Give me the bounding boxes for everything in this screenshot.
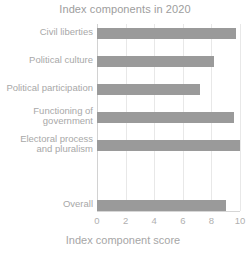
x-tick-label: 4: [152, 215, 157, 226]
bar: [97, 56, 214, 67]
category-axis-labels: Civil libertiesPolitical culturePolitica…: [0, 24, 93, 211]
x-tick-label: 10: [235, 215, 246, 226]
x-tick-label: 0: [94, 215, 99, 226]
bar: [97, 140, 240, 151]
x-tick-label: 8: [209, 215, 214, 226]
bar: [97, 28, 236, 39]
category-label: Electoral process and pluralism: [1, 134, 93, 155]
x-axis-tick-labels: 0246810: [97, 215, 240, 227]
x-axis-title: Index component score: [0, 234, 246, 246]
category-label: Functioning of government: [1, 106, 93, 127]
category-label: Overall: [1, 199, 93, 210]
category-label: Political participation: [1, 83, 93, 94]
x-tick-label: 6: [180, 215, 185, 226]
plot-area: [97, 24, 240, 211]
bar: [97, 112, 234, 123]
gridline: [240, 24, 241, 211]
x-axis-line: [97, 211, 240, 212]
chart-title: Index components in 2020: [0, 3, 250, 15]
bar: [97, 200, 226, 211]
bar: [97, 84, 200, 95]
bar-chart: Index components in 2020 Civil liberties…: [0, 0, 250, 254]
category-label: Political culture: [1, 55, 93, 66]
x-tick-label: 2: [123, 215, 128, 226]
category-label: Civil liberties: [1, 27, 93, 38]
